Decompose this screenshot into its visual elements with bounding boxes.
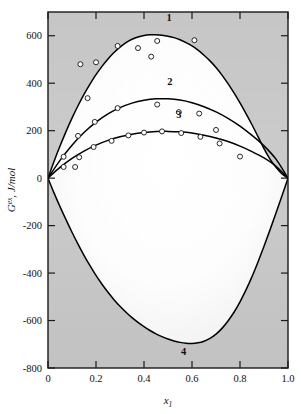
data-point-curve3-3 (109, 138, 114, 143)
data-point-curve2-1 (92, 119, 97, 124)
data-point-curve2-3 (155, 102, 160, 107)
y-tick-label-0: 0 (37, 173, 42, 184)
data-point-curve1-8 (155, 38, 160, 43)
x-tick-label-0.8: 0.8 (233, 373, 246, 384)
x-tick-label-1.0: 1.0 (281, 373, 294, 384)
svg-text:Gex, J/mol: Gex, J/mol (5, 168, 18, 213)
data-point-curve1-0 (61, 154, 66, 159)
data-point-curve3-10 (238, 154, 243, 159)
curve-label-4: 4 (181, 346, 187, 357)
curve-label-1: 1 (167, 12, 172, 23)
data-point-curve3-1 (77, 155, 82, 160)
data-point-curve3-9 (217, 141, 222, 146)
data-point-curve3-6 (160, 129, 165, 134)
data-point-curve1-1 (73, 164, 78, 169)
y-tick-label--200: -200 (23, 220, 42, 231)
x-tick-label-0.2: 0.2 (89, 373, 102, 384)
x-tick-label-0: 0 (45, 373, 50, 384)
curve-label-2: 2 (167, 76, 172, 87)
x-tick-label-0.6: 0.6 (185, 373, 198, 384)
y-tick-label-400: 400 (26, 78, 42, 89)
data-point-curve2-2 (115, 106, 120, 111)
data-point-curve1-7 (149, 54, 154, 59)
y-tick-label--800: -800 (23, 363, 42, 374)
data-point-curve1-6 (136, 46, 141, 51)
data-point-curve3-4 (126, 133, 131, 138)
y-axis-title: Gex, J/mol (5, 168, 18, 213)
y-tick-label-200: 200 (26, 125, 42, 136)
excess-gibbs-energy-chart: 1234 6004002000-200-400-600-80000.20.40.… (0, 0, 301, 414)
curve-label-3: 3 (176, 109, 181, 120)
y-tick-label-600: 600 (26, 30, 42, 41)
data-point-curve2-5 (197, 111, 202, 116)
data-point-curve2-0 (76, 133, 81, 138)
data-point-curve3-0 (61, 164, 66, 169)
data-point-curve3-2 (91, 145, 96, 150)
data-point-curve1-2 (78, 62, 83, 67)
data-point-curve2-6 (214, 127, 219, 132)
data-point-curve3-7 (179, 131, 184, 136)
plot-area (48, 12, 288, 368)
figure-container: 1234 6004002000-200-400-600-80000.20.40.… (0, 0, 301, 414)
y-tick-label--600: -600 (23, 315, 42, 326)
data-point-curve1-3 (85, 96, 90, 101)
data-point-curve1-5 (115, 43, 120, 48)
data-point-curve3-5 (142, 130, 147, 135)
data-point-curve3-8 (198, 134, 203, 139)
data-point-curve1-9 (192, 38, 197, 43)
data-point-curve1-4 (94, 60, 99, 65)
x-tick-label-0.4: 0.4 (137, 373, 151, 384)
y-tick-label--400: -400 (23, 268, 42, 279)
